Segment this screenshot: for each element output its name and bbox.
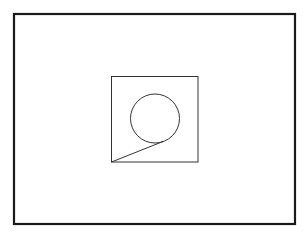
connector-line (112, 142, 164, 163)
diagram-canvas (0, 0, 308, 235)
inner-square (112, 77, 199, 163)
circle (131, 94, 180, 143)
outer-frame (14, 14, 295, 224)
